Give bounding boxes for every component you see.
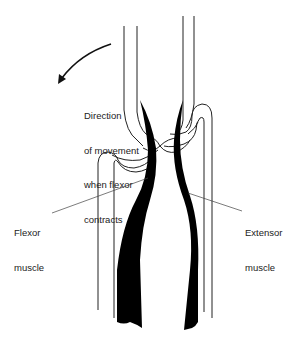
- extensor-label-line1: Extensor: [245, 227, 283, 239]
- joint-diagram: [0, 0, 298, 345]
- direction-label-line2: of movement: [84, 145, 139, 157]
- flexor-label-line2: muscle: [14, 262, 44, 274]
- direction-label-line4: contracts: [84, 214, 139, 226]
- flexor-label-line1: Flexor: [14, 227, 44, 239]
- direction-label-line3: when flexor: [84, 179, 139, 191]
- direction-arrow-icon: [58, 44, 111, 84]
- extensor-leader-line: [188, 193, 242, 211]
- direction-label: Direction of movement when flexor contra…: [84, 87, 139, 237]
- flexor-label: Flexor muscle: [14, 204, 44, 285]
- extensor-label-line2: muscle: [245, 262, 283, 274]
- extensor-label: Extensor muscle: [245, 204, 283, 285]
- direction-label-line1: Direction: [84, 110, 139, 122]
